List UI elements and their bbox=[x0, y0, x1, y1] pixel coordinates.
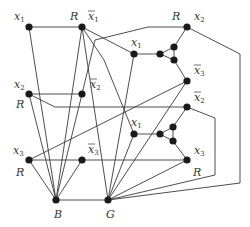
node-nx2R bbox=[183, 103, 190, 110]
edge bbox=[108, 160, 187, 200]
node-nx3R bbox=[183, 77, 190, 84]
node-label: x3 bbox=[88, 143, 99, 157]
node-label: G bbox=[106, 208, 115, 221]
edge bbox=[29, 27, 56, 200]
node-g1a bbox=[130, 50, 137, 57]
graph-diagram: x1x1x2x2x3x3BGx2x1x3x2x1x3RRRRR bbox=[0, 0, 250, 227]
node-label: x2 bbox=[14, 78, 25, 92]
node-B bbox=[52, 196, 59, 203]
node-x1L bbox=[25, 23, 32, 30]
edge bbox=[29, 94, 56, 200]
node-nx1L bbox=[78, 23, 85, 30]
edge bbox=[29, 81, 187, 160]
node-label: x1 bbox=[131, 36, 142, 50]
node-nx3L bbox=[78, 156, 85, 163]
node-label: x1 bbox=[131, 116, 142, 130]
labels: x1x1x2x2x3x3BGx2x1x3x2x1x3RRRRR bbox=[13, 10, 205, 221]
node-g1d bbox=[170, 56, 177, 63]
node-g1c bbox=[170, 43, 177, 50]
node-label: x2 bbox=[194, 10, 205, 24]
node-label: x3 bbox=[194, 64, 205, 78]
node-nx2L bbox=[78, 90, 85, 97]
node-x3R bbox=[183, 156, 190, 163]
r-label: R bbox=[15, 166, 24, 179]
node-label: x2 bbox=[90, 78, 101, 92]
r-label: R bbox=[192, 166, 201, 179]
node-g2d bbox=[169, 137, 176, 144]
node-G bbox=[104, 196, 111, 203]
node-g2a bbox=[130, 130, 137, 137]
edge bbox=[56, 160, 82, 200]
r-label: R bbox=[69, 10, 78, 23]
node-g2b bbox=[156, 130, 163, 137]
edge bbox=[29, 160, 56, 200]
r-label: R bbox=[171, 10, 180, 23]
edge bbox=[82, 27, 108, 200]
r-label: R bbox=[15, 98, 24, 111]
node-label: x3 bbox=[13, 144, 24, 158]
edge bbox=[173, 107, 187, 127]
node-label: x1 bbox=[14, 10, 25, 24]
node-g2c bbox=[169, 123, 176, 130]
node-g1b bbox=[156, 50, 163, 57]
edge bbox=[56, 27, 82, 200]
node-label: x1 bbox=[88, 10, 99, 24]
node-label: x3 bbox=[194, 144, 205, 158]
edge bbox=[56, 94, 82, 200]
edge bbox=[82, 27, 134, 54]
edge bbox=[174, 60, 187, 81]
node-x3L bbox=[25, 156, 32, 163]
node-x2L bbox=[25, 90, 32, 97]
node-x2R bbox=[183, 23, 190, 30]
edge bbox=[29, 94, 187, 107]
node-label: B bbox=[53, 208, 62, 221]
node-label: x2 bbox=[194, 91, 205, 105]
